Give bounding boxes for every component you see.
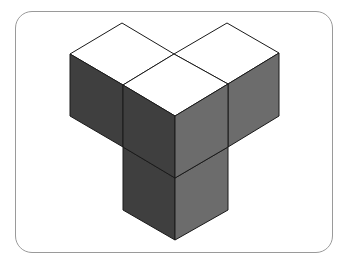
isometric-cubes-figure (0, 0, 347, 264)
